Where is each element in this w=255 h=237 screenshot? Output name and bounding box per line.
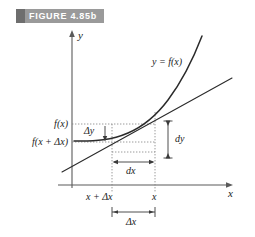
tick-label-x: x xyxy=(152,192,156,202)
x-axis xyxy=(58,182,233,188)
label-f-of-x: f(x) xyxy=(0,119,68,129)
figure-container: FIGURE 4.85b xyxy=(0,0,255,237)
tick-label-x-plus-delta-x: x + Δx xyxy=(86,192,113,202)
curve-label: y = f(x) xyxy=(152,57,182,67)
dy-measure xyxy=(164,121,173,159)
label-f-of-x-plus-delta-x: f(x + Δx) xyxy=(0,137,68,147)
label-dy: dy xyxy=(175,134,184,144)
dx-measure xyxy=(113,160,155,164)
y-axis xyxy=(69,30,75,188)
x-axis-label: x xyxy=(228,188,233,199)
label-delta-x: Δx xyxy=(126,217,136,227)
label-dx: dx xyxy=(126,166,135,176)
label-delta-y: Δy xyxy=(84,126,94,136)
y-axis-label: y xyxy=(78,30,83,41)
